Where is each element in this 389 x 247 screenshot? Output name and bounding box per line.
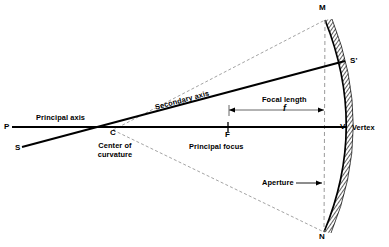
point-label-s-prime: S': [350, 56, 357, 65]
center-of-curvature-label-line2: curvature: [85, 150, 145, 159]
diagram-canvas: [0, 0, 389, 247]
vertex-label: Vertex: [352, 123, 375, 132]
aperture-chord-line: [324, 20, 325, 232]
point-label-c: C: [110, 128, 116, 137]
principal-focus-label: Principal focus: [189, 142, 243, 151]
point-label-v: V: [340, 122, 345, 131]
point-label-p: P: [4, 122, 9, 131]
aperture-label: Aperture: [262, 178, 294, 187]
mirror-hatched-band: [324, 19, 353, 233]
principal-axis-label: Principal axis: [36, 113, 85, 122]
point-label-m: M: [319, 3, 326, 12]
point-label-f: F: [225, 130, 230, 139]
focal-length-symbol: f: [283, 104, 286, 113]
point-label-n: N: [319, 232, 325, 241]
optics-diagram: P S C F V M N S' Principal axis Secondar…: [0, 0, 389, 247]
center-of-curvature-label-line1: Center of: [85, 141, 145, 150]
point-label-s: S: [15, 143, 20, 152]
